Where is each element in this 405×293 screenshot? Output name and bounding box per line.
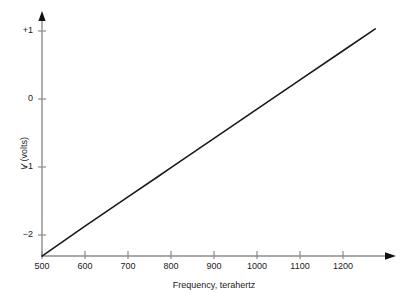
y-axis-title-symbol: V (19, 164, 29, 170)
x-tick-label: 900 (194, 262, 234, 271)
plot-canvas (0, 0, 405, 293)
y-axis-title: V (volts) (20, 137, 29, 170)
x-tick-label: 700 (108, 262, 148, 271)
data-series-line (42, 29, 375, 256)
x-tick-label: 800 (151, 262, 191, 271)
x-axis-title: Frequency, terahertz (42, 281, 386, 290)
x-tick-label: 600 (65, 262, 105, 271)
x-tick-label: 500 (22, 262, 62, 271)
y-tick-label: −2 (8, 230, 33, 239)
y-axis-title-units: (volts) (19, 137, 29, 164)
y-tick-label: +1 (8, 26, 33, 35)
x-tick-marks (42, 251, 343, 259)
x-tick-label: 1200 (323, 262, 363, 271)
y-tick-label: 0 (8, 94, 33, 103)
x-tick-label: 1100 (280, 262, 320, 271)
chart-figure: +10−1−2 500600700800900100011001200 V (v… (0, 0, 405, 293)
y-axis-arrowhead (38, 11, 45, 21)
x-tick-label: 1000 (237, 262, 277, 271)
x-axis-arrowhead (385, 252, 396, 260)
